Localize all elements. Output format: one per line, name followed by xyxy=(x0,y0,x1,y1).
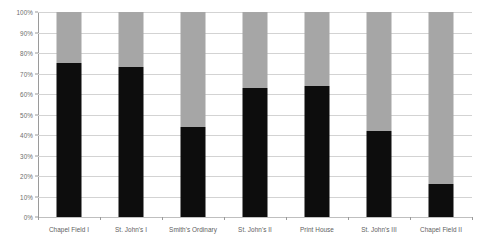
x-tick-mark xyxy=(162,217,163,220)
bar-segment-lower[interactable] xyxy=(305,86,330,217)
gridline-0 xyxy=(38,217,472,218)
bar-slot xyxy=(162,12,224,217)
bar-3[interactable] xyxy=(181,12,206,217)
y-axis-tick-label: 60% xyxy=(20,91,33,98)
bar-segment-upper[interactable] xyxy=(181,12,206,127)
bar-segment-lower[interactable] xyxy=(119,67,144,217)
y-axis-tick-label: 50% xyxy=(20,111,33,118)
bar-slot xyxy=(38,12,100,217)
x-axis-category-label: Print House xyxy=(300,226,334,233)
x-axis-category-label: St. John's III xyxy=(361,226,397,233)
bar-slot xyxy=(410,12,472,217)
x-axis-category-label: St. John's II xyxy=(238,226,272,233)
bar-segment-lower[interactable] xyxy=(57,63,82,217)
y-axis-tick-label: 100% xyxy=(16,9,33,16)
bar-5[interactable] xyxy=(305,12,330,217)
y-axis-tick-label: 90% xyxy=(20,29,33,36)
bar-slot xyxy=(286,12,348,217)
x-axis-category-label: Chapel Field I xyxy=(49,226,89,233)
x-tick-mark xyxy=(100,217,101,220)
bar-segment-lower[interactable] xyxy=(243,88,268,217)
bar-segment-upper[interactable] xyxy=(243,12,268,88)
x-tick-mark xyxy=(472,217,473,220)
x-tick-mark xyxy=(410,217,411,220)
bar-segment-upper[interactable] xyxy=(429,12,454,184)
bar-segment-upper[interactable] xyxy=(119,12,144,67)
x-tick-mark xyxy=(38,217,39,220)
bar-segment-lower[interactable] xyxy=(429,184,454,217)
stacked-bar-chart: 100%90%80%70%60%50%40%30%20%10%0%Chapel … xyxy=(0,0,480,244)
x-tick-mark xyxy=(348,217,349,220)
y-axis-tick-label: 20% xyxy=(20,173,33,180)
y-axis-tick-label: 30% xyxy=(20,152,33,159)
x-tick-mark xyxy=(286,217,287,220)
bar-6[interactable] xyxy=(367,12,392,217)
bar-7[interactable] xyxy=(429,12,454,217)
y-axis-tick-label: 40% xyxy=(20,132,33,139)
x-axis-category-label: Smith's Ordinary xyxy=(169,226,217,233)
bar-4[interactable] xyxy=(243,12,268,217)
y-axis-tick-label: 80% xyxy=(20,50,33,57)
bar-slot xyxy=(224,12,286,217)
y-axis-tick-label: 0% xyxy=(24,214,33,221)
bar-segment-lower[interactable] xyxy=(181,127,206,217)
bar-segment-lower[interactable] xyxy=(367,131,392,217)
x-axis-category-label: Chapel Field II xyxy=(420,226,462,233)
bar-1[interactable] xyxy=(57,12,82,217)
bar-slot xyxy=(100,12,162,217)
x-axis-category-label: St. John's I xyxy=(115,226,147,233)
bar-segment-upper[interactable] xyxy=(367,12,392,131)
bar-segment-upper[interactable] xyxy=(305,12,330,86)
bar-segment-upper[interactable] xyxy=(57,12,82,63)
bar-slot xyxy=(348,12,410,217)
bar-2[interactable] xyxy=(119,12,144,217)
x-tick-mark xyxy=(224,217,225,220)
y-axis-tick-label: 10% xyxy=(20,193,33,200)
plot-area: 100%90%80%70%60%50%40%30%20%10%0%Chapel … xyxy=(38,12,472,217)
y-axis-tick-label: 70% xyxy=(20,70,33,77)
